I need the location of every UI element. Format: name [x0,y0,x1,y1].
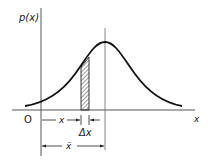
probability-density-diagram: p(x) O x x Δx x̄ [0,0,209,164]
mean-dimension-label: x̄ [65,141,72,151]
delta-x-label: Δx [78,127,92,138]
origin-label: O [24,114,32,125]
density-curve [25,42,182,106]
x-axis-label: x [193,114,200,124]
x-dimension-label: x [58,115,65,125]
y-axis-label: p(x) [18,12,39,23]
